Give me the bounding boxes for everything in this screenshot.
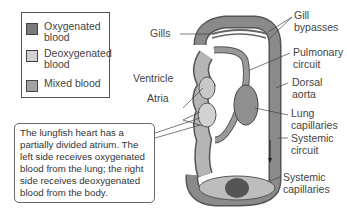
atria — [198, 103, 216, 127]
legend-label: Deoxygenated blood — [44, 48, 112, 70]
legend-item-mixed: Mixed blood — [26, 78, 101, 92]
legend-label: Oxygenated blood — [44, 21, 101, 43]
label-atria: Atria — [147, 93, 169, 105]
callout-box: The lungfish heart has a partially divid… — [14, 123, 155, 203]
legend-label: Mixed blood — [44, 78, 101, 89]
label-dorsal-aorta: Dorsal aorta — [292, 77, 322, 100]
legend-item-oxygenated: Oxygenated blood — [26, 21, 101, 43]
legend: Oxygenated blood Deoxygenated blood Mixe… — [21, 12, 110, 98]
label-gill-bypasses: Gill bypasses — [294, 10, 338, 33]
label-ventricle: Ventricle — [133, 73, 173, 85]
label-lung-capillaries: Lung capillaries — [291, 108, 338, 131]
oxygenated-swatch — [26, 23, 38, 35]
ventricle — [199, 77, 215, 99]
legend-item-deoxygenated: Deoxygenated blood — [26, 48, 112, 70]
deoxygenated-swatch — [26, 50, 38, 62]
label-systemic-circuit: Systemic circuit — [291, 133, 334, 156]
label-gills: Gills — [150, 28, 170, 40]
mixed-swatch — [26, 80, 38, 92]
label-systemic-capillaries: Systemic capillaries — [283, 172, 330, 195]
label-pulmonary-circuit: Pulmonary circuit — [293, 47, 343, 70]
lung-capillaries — [234, 85, 258, 125]
